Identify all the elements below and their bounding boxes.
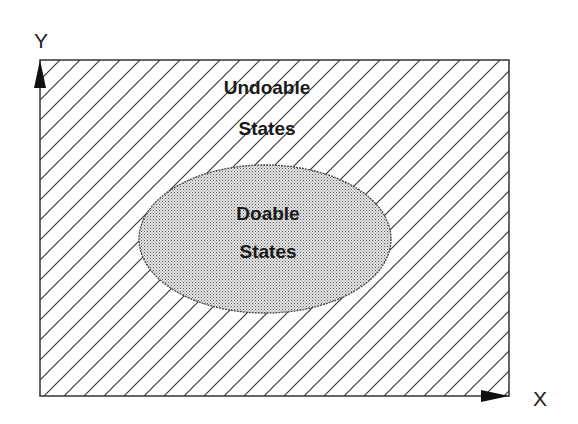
doable-states-label-line1: Doable <box>236 203 299 224</box>
doable-states-region <box>139 165 391 313</box>
state-space-diagram: Y X Undoable States Doable States <box>0 0 578 424</box>
doable-states-label-line2: States <box>239 241 296 262</box>
undoable-states-label-line2: States <box>238 118 295 139</box>
y-axis-label: Y <box>34 29 48 52</box>
x-axis-label: X <box>533 387 547 410</box>
undoable-states-label-line1: Undoable <box>224 77 311 98</box>
